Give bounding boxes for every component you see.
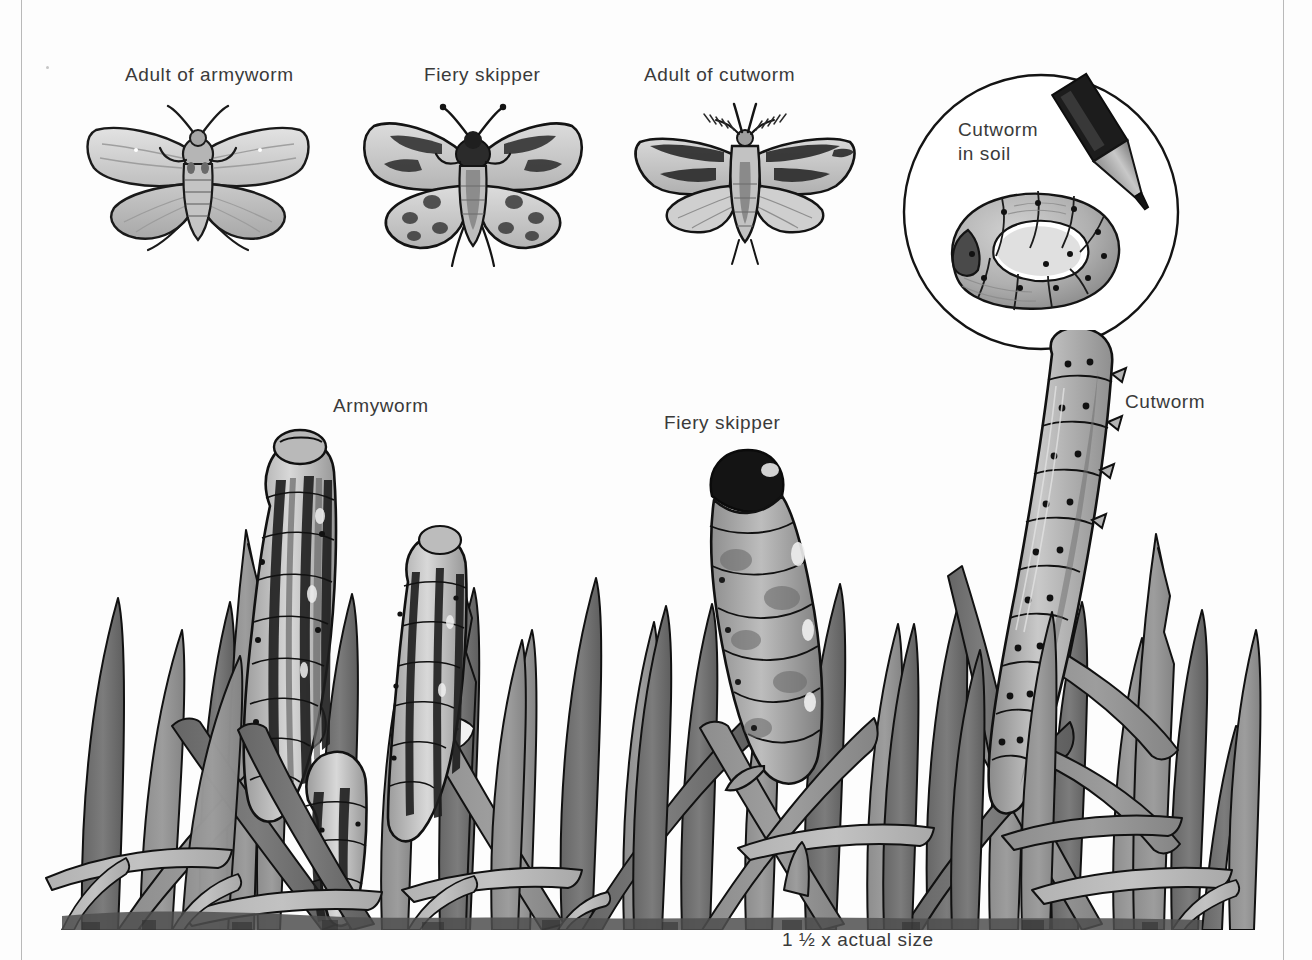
scale-caption: 1 ½ x actual size [782,928,934,952]
fiery-skipper-larva-label: Fiery skipper [664,411,781,435]
cutworm-in-soil-label: Cutwormin soil [958,118,1038,166]
fiery-skipper-moth-label: Fiery skipper [424,63,541,87]
armyworm-moth-label: Adult of armyworm [125,63,294,87]
armyworm-larva-label: Armyworm [333,394,429,418]
page-rule-right [1283,0,1284,960]
turf-scene-illustration [22,330,1282,930]
cutworm-moth-illustration [620,100,870,270]
armyworm-moth-illustration [78,98,318,268]
cutworm-moth-label: Adult of cutworm [644,63,795,87]
cutworm-larva-label: Cutworm [1125,390,1205,414]
cutworm-in-soil-inset [898,72,1188,372]
cutworm-in-soil-line2: in soil [958,143,1011,164]
cutworm-in-soil-line1: Cutworm [958,119,1038,140]
paper-speck [46,66,49,69]
fiery-skipper-moth-illustration [348,96,598,276]
illustration-plate: Adult of armyworm [0,0,1312,960]
